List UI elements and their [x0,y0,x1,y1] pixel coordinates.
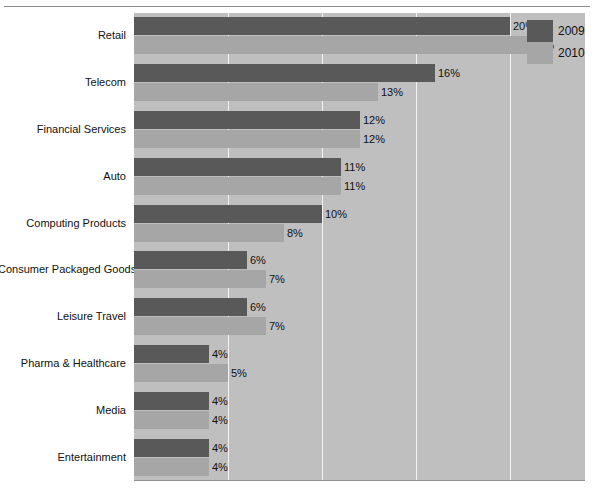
bar-2009-retail [134,17,510,35]
bar-value-label: 6% [247,251,266,269]
bar-2009-consumer-packaged-goods [134,251,247,269]
bar-value-label: 4% [209,458,228,476]
bar-value-label: 7% [266,270,285,288]
category-label-entertainment: Entertainment [0,451,126,464]
category-axis-labels: RetailTelecomFinancial ServicesAutoCompu… [0,13,130,481]
bar-row: 16%13% [134,64,585,102]
bar-value-label: 13% [378,83,403,101]
bar-2010-entertainment [134,458,209,476]
bar-value-label: 10% [322,205,347,223]
bar-2010-media [134,411,209,429]
category-label-telecom: Telecom [0,76,126,89]
bar-row: 20%21% [134,17,585,55]
bar-2009-pharma-healthcare [134,345,209,363]
bar-2009-entertainment [134,439,209,457]
bar-value-label: 12% [360,130,385,148]
bar-row: 4%5% [134,345,585,383]
top-divider-rule [4,6,590,7]
bar-2010-consumer-packaged-goods [134,270,266,288]
category-label-financial-services: Financial Services [0,123,126,136]
bar-2010-financial-services [134,130,360,148]
bar-chart: RetailTelecomFinancial ServicesAutoCompu… [0,0,594,501]
category-label-media: Media [0,404,126,417]
bar-rows: 20%21%16%13%12%12%11%11%10%8%6%7%6%7%4%5… [134,13,585,480]
bar-value-label: 4% [209,439,228,457]
bar-row: 6%7% [134,298,585,336]
bar-row: 11%11% [134,158,585,196]
bar-row: 12%12% [134,111,585,149]
bar-row: 4%4% [134,439,585,477]
bar-2010-retail [134,36,529,54]
bar-value-label: 11% [341,177,365,195]
bar-value-label: 4% [209,411,228,429]
bar-value-label: 6% [247,298,266,316]
bar-2009-telecom [134,64,435,82]
bar-2009-computing-products [134,205,322,223]
legend-label-2010: 2010 [558,42,585,64]
bar-value-label: 7% [266,317,285,335]
bar-row: 10%8% [134,205,585,243]
bar-value-label: 11% [341,158,365,176]
bar-2009-financial-services [134,111,360,129]
bar-value-label: 16% [435,64,460,82]
legend: 2009 2010 [527,20,587,64]
bar-row: 4%4% [134,392,585,430]
bar-2009-auto [134,158,341,176]
legend-swatch-2010 [527,42,553,64]
bar-value-label: 4% [209,345,228,363]
legend-swatches [527,20,553,64]
category-label-computing-products: Computing Products [0,217,126,230]
bar-2010-leisure-travel [134,317,266,335]
plot-area: 20%21%16%13%12%12%11%11%10%8%6%7%6%7%4%5… [134,13,585,481]
category-label-leisure-travel: Leisure Travel [0,310,126,323]
category-label-consumer-packaged-goods: Consumer Packaged Goods [0,263,126,276]
bar-row: 6%7% [134,251,585,289]
bar-2010-computing-products [134,224,284,242]
bar-2010-pharma-healthcare [134,364,228,382]
bar-2009-leisure-travel [134,298,247,316]
category-label-retail: Retail [0,29,126,42]
bar-value-label: 12% [360,111,385,129]
category-label-auto: Auto [0,170,126,183]
legend-swatch-2009 [527,20,553,42]
bar-value-label: 4% [209,392,228,410]
bar-value-label: 8% [284,224,303,242]
bar-2010-telecom [134,83,378,101]
bar-value-label: 5% [228,364,247,382]
bar-2009-media [134,392,209,410]
legend-label-2009: 2009 [558,20,585,42]
category-label-pharma-healthcare: Pharma & Healthcare [0,357,126,370]
bar-2010-auto [134,177,341,195]
